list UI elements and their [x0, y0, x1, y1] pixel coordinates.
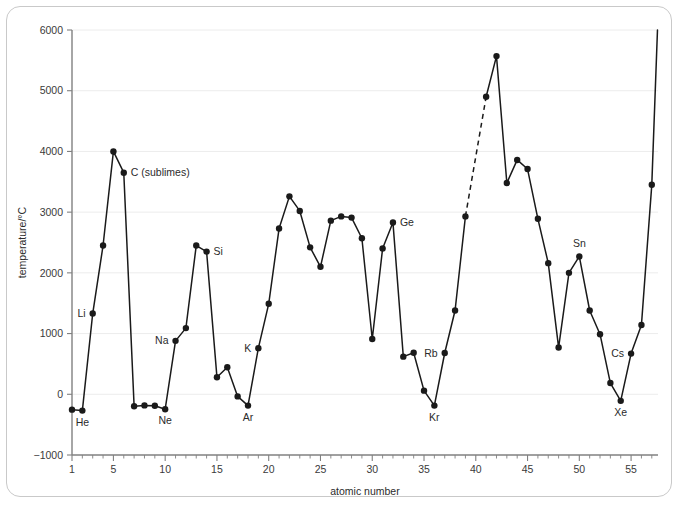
series-segment-offscale [652, 30, 658, 185]
periodic-boiling-point-chart: −100001000200030004000500060001510152025… [0, 0, 680, 505]
y-tick-label: −1000 [34, 449, 64, 461]
data-point [317, 264, 323, 270]
data-point-label: Rb [424, 347, 438, 359]
data-point-label: Xe [614, 406, 627, 418]
data-point [203, 248, 209, 254]
data-point [566, 270, 572, 276]
y-tick-label: 2000 [40, 267, 64, 279]
data-point [462, 213, 468, 219]
data-point [524, 166, 530, 172]
data-point [131, 403, 137, 409]
data-point-label: Sn [573, 237, 586, 249]
data-point [297, 208, 303, 214]
data-point [276, 225, 282, 231]
y-tick-label: 1000 [40, 327, 64, 339]
data-point [504, 180, 510, 186]
data-point [162, 406, 168, 412]
data-point [421, 387, 427, 393]
data-point [141, 402, 147, 408]
data-point [255, 345, 261, 351]
x-tick-label: 25 [315, 463, 327, 475]
x-tick-label: 15 [211, 463, 223, 475]
data-point-label: Si [214, 245, 223, 257]
data-point [214, 374, 220, 380]
data-point [545, 260, 551, 266]
x-axis-title: atomic number [330, 485, 400, 497]
data-point [359, 235, 365, 241]
series-segment [486, 56, 652, 401]
x-tick-label: 1 [69, 463, 75, 475]
data-point [452, 307, 458, 313]
data-point-label: He [76, 416, 90, 428]
data-point [400, 353, 406, 359]
data-point [328, 217, 334, 223]
data-point [224, 364, 230, 370]
x-tick-label: 5 [110, 463, 116, 475]
data-point [628, 350, 634, 356]
x-tick-label: 45 [522, 463, 534, 475]
data-point [152, 403, 158, 409]
data-point [266, 301, 272, 307]
data-point [69, 406, 75, 412]
data-point [483, 94, 489, 100]
data-point [390, 219, 396, 225]
data-point [307, 244, 313, 250]
axis-tick-labels: −100001000200030004000500060001510152025… [34, 24, 638, 475]
data-point [597, 331, 603, 337]
data-point-label: Na [155, 334, 169, 346]
data-point [410, 350, 416, 356]
data-point [649, 182, 655, 188]
data-point [442, 350, 448, 356]
data-point [79, 407, 85, 413]
series-segment [72, 151, 465, 410]
axes [72, 30, 658, 455]
y-tick-label: 4000 [40, 145, 64, 157]
data-point-label: Ge [400, 216, 414, 228]
data-series [72, 30, 657, 411]
data-point-labels: HeLiC (sublimes)NeNaSiArKGeKrRbSnXeCs [76, 166, 628, 427]
x-tick-label: 40 [470, 463, 482, 475]
y-tick-label: 5000 [40, 84, 64, 96]
data-point [286, 193, 292, 199]
data-point [618, 398, 624, 404]
data-point-label: Cs [611, 347, 624, 359]
y-tick-label: 6000 [40, 24, 64, 36]
data-point [379, 245, 385, 251]
axis-ticks [67, 30, 652, 461]
data-point-label: Ar [243, 411, 254, 423]
data-point [586, 307, 592, 313]
data-point-label: Kr [429, 411, 440, 423]
x-tick-label: 50 [573, 463, 585, 475]
data-point [338, 213, 344, 219]
data-point [90, 310, 96, 316]
y-tick-label: 0 [57, 388, 63, 400]
data-point [555, 344, 561, 350]
data-point [348, 214, 354, 220]
data-point [110, 148, 116, 154]
data-point [121, 169, 127, 175]
y-tick-label: 3000 [40, 206, 64, 218]
data-point [431, 402, 437, 408]
y-axis-title: temperature/°C [16, 206, 28, 278]
data-point [172, 338, 178, 344]
x-tick-label: 35 [418, 463, 430, 475]
data-point [576, 253, 582, 259]
data-point [100, 242, 106, 248]
x-tick-label: 20 [263, 463, 275, 475]
data-point [193, 242, 199, 248]
series-segment-dashed [465, 97, 486, 217]
data-point-label: C (sublimes) [131, 166, 190, 178]
data-point [607, 380, 613, 386]
data-point [234, 393, 240, 399]
x-tick-label: 55 [625, 463, 637, 475]
data-point-label: K [244, 342, 251, 354]
data-points [69, 53, 655, 414]
x-tick-label: 30 [366, 463, 378, 475]
data-point [514, 157, 520, 163]
x-tick-label: 10 [159, 463, 171, 475]
data-point-label: Ne [158, 414, 172, 426]
data-point [183, 325, 189, 331]
chart-area: −100001000200030004000500060001510152025… [0, 0, 680, 505]
data-point [493, 53, 499, 59]
data-point-label: Li [78, 307, 86, 319]
